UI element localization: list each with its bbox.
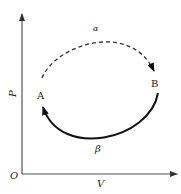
process-alpha-curve — [42, 42, 154, 78]
origin-label: O — [10, 170, 18, 181]
diagram-svg: O V P A B α β — [0, 0, 181, 194]
pv-diagram: O V P A B α β — [0, 0, 181, 194]
y-axis-label: P — [7, 90, 18, 98]
state-b-label: B — [151, 78, 158, 89]
process-beta-label: β — [94, 143, 101, 154]
process-beta-curve — [43, 93, 158, 139]
process-alpha-label: α — [93, 24, 99, 33]
x-axis-label: V — [97, 178, 106, 189]
state-a-label: A — [36, 90, 45, 101]
